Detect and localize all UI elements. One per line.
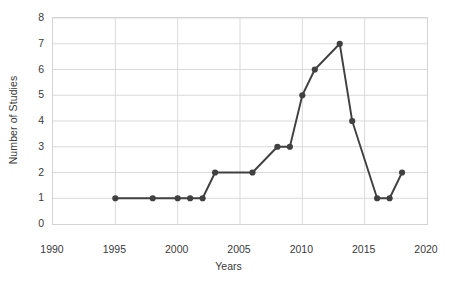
x-axis-tick-label: 2000 (165, 243, 188, 255)
data-point-marker (387, 195, 393, 201)
x-axis-title-label: Years (215, 260, 241, 272)
y-axis-tick-label: 5 (38, 88, 44, 100)
data-point-marker (150, 195, 156, 201)
y-axis-tick-label: 2 (38, 166, 44, 178)
x-axis-tick-label: 2020 (414, 243, 437, 255)
data-point-marker (112, 195, 118, 201)
data-point-marker (187, 195, 193, 201)
y-axis-tick-labels: 012345678 (24, 0, 48, 240)
x-axis-tick-label: 1995 (103, 243, 126, 255)
data-point-marker (374, 195, 380, 201)
x-axis-tick-labels: 1990199520002005201020152020 (0, 240, 457, 260)
data-point-marker (349, 118, 355, 124)
y-axis-title-label: Number of Studies (7, 76, 19, 165)
data-point-marker (287, 144, 293, 150)
x-axis-tick-label: 2010 (290, 243, 313, 255)
data-point-marker (337, 41, 343, 47)
y-axis-tick-label: 4 (38, 114, 44, 126)
line-chart: Number of Studies 012345678 199019952000… (0, 0, 457, 285)
data-point-marker (312, 66, 318, 72)
y-axis-tick-label: 6 (38, 63, 44, 75)
y-axis-tick-label: 3 (38, 140, 44, 152)
data-point-marker (249, 169, 255, 175)
data-point-marker (212, 169, 218, 175)
x-axis-tick-label: 2015 (352, 243, 375, 255)
x-axis-title: Years (0, 260, 457, 272)
y-axis-title: Number of Studies (2, 0, 24, 240)
data-point-marker (200, 195, 206, 201)
x-axis-tick-label: 1990 (40, 243, 63, 255)
plot-area (52, 17, 428, 225)
data-point-marker (175, 195, 181, 201)
x-axis-tick-label: 2005 (227, 243, 250, 255)
plot-svg (53, 18, 427, 224)
y-axis-tick-label: 8 (38, 11, 44, 23)
data-point-marker (274, 144, 280, 150)
data-point-marker (399, 169, 405, 175)
data-point-marker (299, 92, 305, 98)
y-axis-tick-label: 1 (38, 191, 44, 203)
y-axis-tick-label: 0 (38, 217, 44, 229)
y-axis-tick-label: 7 (38, 37, 44, 49)
grid-lines (53, 18, 427, 224)
